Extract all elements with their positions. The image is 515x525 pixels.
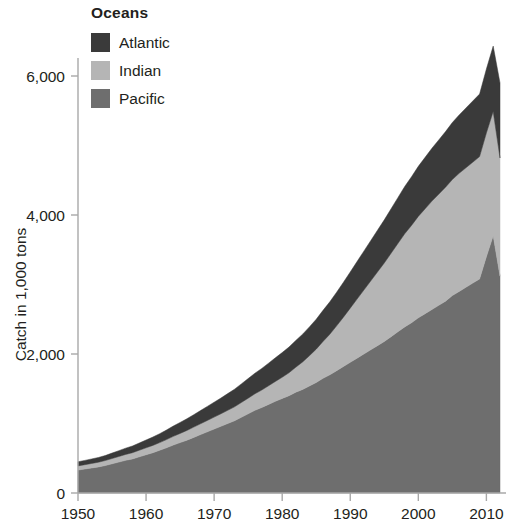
x-tick-label: 2010	[469, 505, 504, 522]
legend-item-indian: Indian	[91, 61, 161, 80]
x-tick-label: 1990	[333, 505, 368, 522]
y-tick-label: 4,000	[26, 207, 65, 224]
x-tick-label: 2000	[401, 505, 436, 522]
area-series-group	[78, 46, 500, 493]
chart-canvas: 02,0004,0006,000195019601970198019902000…	[0, 0, 515, 525]
legend-item-pacific: Pacific	[91, 89, 165, 108]
y-tick-label: 6,000	[26, 68, 65, 85]
stacked-area-chart: 02,0004,0006,000195019601970198019902000…	[0, 0, 515, 525]
legend-label: Atlantic	[119, 34, 170, 52]
x-tick-label: 1950	[61, 505, 96, 522]
axis-title-group: Catch in 1,000 tons	[12, 227, 29, 361]
legend-swatch-atlantic-icon	[91, 33, 110, 52]
x-tick-label: 1970	[197, 505, 232, 522]
y-tick-label: 2,000	[26, 346, 65, 363]
x-tick-label: 1960	[129, 505, 164, 522]
legend-swatch-indian-icon	[91, 61, 110, 80]
y-tick-label: 0	[56, 485, 65, 502]
y-axis-title: Catch in 1,000 tons	[12, 227, 29, 361]
legend-label: Indian	[119, 62, 161, 80]
legend-label: Pacific	[119, 90, 165, 108]
x-tick-label: 1980	[265, 505, 300, 522]
legend-item-atlantic: Atlantic	[91, 33, 170, 52]
legend-swatch-pacific-icon	[91, 89, 110, 108]
legend-title: Oceans	[91, 4, 148, 22]
